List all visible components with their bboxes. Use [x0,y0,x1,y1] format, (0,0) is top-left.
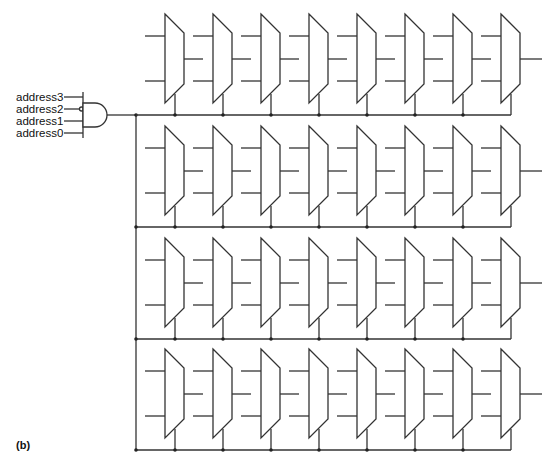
junction-dot [317,113,321,117]
mux-icon [309,14,328,103]
mux [481,349,542,450]
mux-icon [213,349,232,438]
mux [145,126,203,229]
mux [145,238,203,341]
junction-dot [134,225,138,229]
mux [433,238,491,341]
mux [193,126,251,229]
junction-dot [461,448,465,452]
mux-icon [501,238,520,327]
mux [337,349,395,452]
mux-icon [165,349,184,438]
mux-icon [405,14,424,103]
mux-row-3 [134,238,542,341]
mux [289,14,347,117]
junction-dot [317,448,321,452]
mux-icon [357,126,376,215]
mux-icon [405,238,424,327]
junction-dot [221,113,225,117]
mux [385,14,443,117]
junction-dot [269,448,273,452]
mux [337,126,395,229]
junction-dot [413,113,417,117]
junction-dot [134,448,138,452]
mux-icon [309,126,328,215]
junction-dot [365,448,369,452]
junction-dot [413,225,417,229]
junction-dot [269,113,273,117]
mux-icon [453,349,472,438]
and-gate-icon [83,103,107,127]
mux-array-diagram: address3 address2 address1 address0 (b) [0,0,549,469]
junction-dot [317,225,321,229]
mux [433,14,491,117]
mux-icon [213,238,232,327]
mux [433,349,491,452]
mux [337,238,395,341]
mux-icon [357,238,376,327]
junction-dot [413,337,417,341]
mux [289,126,347,229]
mux-icon [261,126,280,215]
figure-label: (b) [16,439,30,451]
mux-icon [213,14,232,103]
address1-label: address1 [16,115,63,127]
mux [241,14,299,117]
junction-dot [269,225,273,229]
junction-dot [221,225,225,229]
mux-icon [405,126,424,215]
mux-row-2 [134,126,542,229]
mux-icon [309,238,328,327]
mux-icon [453,126,472,215]
mux-icon [357,14,376,103]
mux [481,238,542,339]
junction-dot [173,225,177,229]
mux [481,14,542,115]
junction-dot [317,337,321,341]
junction-dot [269,337,273,341]
mux [193,349,251,452]
mux-icon [453,14,472,103]
junction-dot [173,448,177,452]
junction-dot [365,225,369,229]
mux [241,349,299,452]
address-labels: address3 address2 address1 address0 [16,91,63,139]
mux [241,126,299,229]
junction-dot [365,337,369,341]
mux-icon [501,14,520,103]
mux-icon [309,349,328,438]
address2-label: address2 [16,103,63,115]
junction-dot [413,448,417,452]
mux-icon [165,14,184,103]
mux-icon [261,14,280,103]
address0-label: address0 [16,127,63,139]
mux-icon [357,349,376,438]
mux-icon [453,238,472,327]
junction-dot [461,337,465,341]
junction-dot [173,337,177,341]
mux-icon [261,238,280,327]
mux [385,349,443,452]
mux [193,14,251,117]
mux-icon [405,349,424,438]
mux [385,238,443,341]
mux-icon [261,349,280,438]
mux [433,126,491,229]
mux-row-4 [134,349,542,452]
mux [145,14,203,117]
junction-dot [365,113,369,117]
junction-dot [461,113,465,117]
junction-dot [221,448,225,452]
and-gate-decoder [64,92,138,450]
mux [337,14,395,117]
junction-dot [461,225,465,229]
mux-icon [501,349,520,438]
mux [289,238,347,341]
junction-dot [221,337,225,341]
mux [193,238,251,341]
junction-dot [134,337,138,341]
address3-label: address3 [16,91,63,103]
mux [289,349,347,452]
junction-dot [173,113,177,117]
mux-icon [213,126,232,215]
